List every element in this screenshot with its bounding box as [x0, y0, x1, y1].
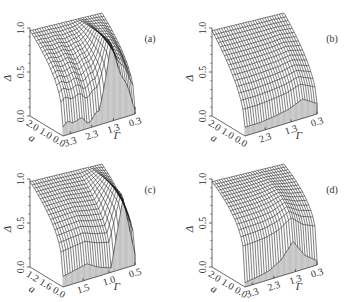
a-tick-label: 1.0 [220, 276, 236, 292]
surface-mesh [212, 13, 317, 136]
gamma-axis-label: Γ [113, 129, 121, 141]
gamma-tick-label: 3.3 [63, 134, 78, 148]
panel-b: 0.00.51.0Δ2.01.00.0a2.31.30.3Γ(b) [182, 0, 364, 151]
z-tick-label: 0.5 [15, 66, 26, 79]
gamma-axis-label: Γ [295, 280, 303, 292]
z-tick-label: 0.5 [15, 217, 26, 230]
surface-plot: 0.00.51.0Δ2.01.00.0a3.32.31.30.3Γ(d) [182, 151, 364, 302]
z-tick-label: 0.0 [197, 261, 208, 274]
surface-mesh [30, 13, 135, 136]
gamma-tick-label: 2.3 [266, 279, 281, 293]
z-axis-label: Δ [183, 75, 195, 82]
gamma-tick-label: 3.3 [245, 285, 260, 299]
a-axis-label: a [209, 131, 220, 144]
panel-c: 0.00.51.0Δ1.21.60.0a1.51.00.5Γ(c) [0, 151, 182, 302]
surface-plot: 0.00.51.0Δ2.01.00.0a3.32.31.30.3Γ(a) [0, 0, 182, 151]
panel-a: 0.00.51.0Δ2.01.00.0a3.32.31.30.3Γ(a) [0, 0, 182, 151]
gamma-axis-label: Γ [295, 129, 303, 141]
z-tick-label: 0.0 [15, 110, 26, 123]
a-tick-label: 1.0 [38, 125, 54, 141]
surface-plot: 0.00.51.0Δ2.01.00.0a2.31.30.3Γ(b) [182, 0, 364, 151]
z-tick-label: 0.0 [197, 110, 208, 123]
z-tick-label: 1.0 [197, 22, 208, 35]
z-tick-label: 0.5 [197, 66, 208, 79]
z-tick-label: 1.0 [15, 173, 26, 186]
surface-mesh [30, 164, 135, 287]
z-axis-label: Δ [1, 226, 13, 233]
gamma-tick-label: 2.3 [258, 130, 273, 144]
gamma-tick-label: 0.5 [127, 266, 142, 280]
a-tick-label: 1.6 [38, 276, 54, 292]
a-axis-label: a [209, 282, 220, 295]
a-axis-label: a [27, 282, 38, 295]
z-tick-label: 1.0 [197, 173, 208, 186]
surface-mesh [212, 164, 317, 287]
gamma-tick-label: 2.3 [84, 128, 99, 142]
a-tick-label: 1.0 [220, 125, 236, 141]
z-axis-label: Δ [183, 226, 195, 233]
panel-d: 0.00.51.0Δ2.01.00.0a3.32.31.30.3Γ(d) [182, 151, 364, 302]
gamma-tick-label: 1.5 [76, 281, 91, 295]
z-axis-label: Δ [1, 75, 13, 82]
panel-label: (a) [144, 33, 155, 45]
z-tick-label: 0.5 [197, 217, 208, 230]
z-tick-label: 0.0 [15, 261, 26, 274]
panel-label: (d) [326, 184, 338, 196]
gamma-tick-label: 0.3 [127, 115, 142, 129]
panel-label: (c) [144, 184, 155, 196]
surface-plot: 0.00.51.0Δ1.21.60.0a1.51.00.5Γ(c) [0, 151, 182, 302]
gamma-tick-label: 0.3 [309, 115, 324, 129]
a-axis-label: a [27, 131, 38, 144]
gamma-tick-label: 0.3 [309, 266, 324, 280]
z-tick-label: 1.0 [15, 22, 26, 35]
gamma-axis-label: Γ [113, 280, 121, 292]
panel-label: (b) [326, 33, 338, 45]
